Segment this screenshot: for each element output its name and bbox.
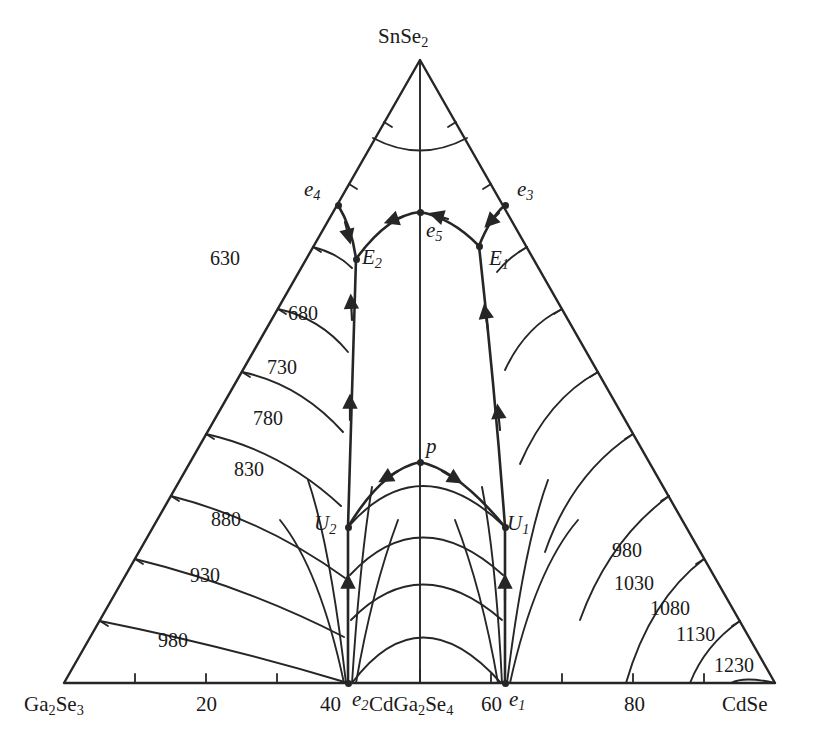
isotherm-arcs-right [497, 247, 775, 683]
invariant-point-marker-U2 [345, 524, 352, 531]
invariant-point-marker-e1 [502, 680, 509, 687]
isotherm-label-730: 730 [267, 357, 297, 377]
vertex-label-bottom-left: Ga2Se3 [24, 694, 84, 717]
vertex-label-bottom-right: CdSe [722, 694, 768, 715]
isotherm-label-830: 830 [234, 459, 264, 479]
invariant-point-marker-E2 [353, 256, 360, 263]
isotherm-label-1080: 1080 [650, 598, 690, 618]
invariant-point-marker-E1 [476, 243, 483, 250]
vertex-label-top: SnSe2 [378, 26, 428, 49]
invariant-point-E1: E1 [489, 248, 509, 271]
invariant-point-e3: e3 [517, 179, 533, 202]
isotherm-label-980: 980 [158, 630, 188, 650]
isotherm-label-630: 630 [210, 248, 240, 268]
isotherm-label-1030: 1030 [614, 573, 654, 593]
axis-compound-label: CdGa2Se4 [369, 694, 453, 717]
invariant-point-marker-p [417, 459, 424, 466]
invariant-point-e5: e5 [426, 220, 442, 243]
isotherm-label-1130: 1130 [676, 624, 715, 644]
isotherm-label-880: 880 [211, 509, 241, 529]
isotherm-label-980: 980 [612, 540, 642, 560]
invariant-point-marker-e5 [417, 209, 424, 216]
isotherm-label-780: 780 [253, 408, 283, 428]
invariant-point-e2: e2 [352, 689, 368, 712]
invariant-point-p: p [426, 436, 437, 457]
boundary-p-U1 [420, 462, 505, 527]
invariant-point-e1: e1 [509, 689, 525, 712]
isotherm-arcs-center [348, 486, 505, 683]
invariant-point-marker-U1 [502, 524, 509, 531]
boundary-e4-E2 [338, 205, 356, 259]
axis-tick-label-60: 60 [481, 694, 502, 715]
ternary-phase-diagram: SnSe2 Ga2Se3 CdSe 20 40 CdGa2Se4 60 80 e… [0, 0, 832, 755]
invariant-point-marker-e4 [335, 202, 342, 209]
invariant-point-U1: U1 [507, 513, 529, 536]
invariant-point-marker-e3 [502, 202, 509, 209]
isotherm-label-1230: 1230 [714, 655, 754, 675]
invariant-point-marker-e2 [345, 680, 352, 687]
isotherm-label-680: 680 [288, 303, 318, 323]
axis-tick-label-80: 80 [624, 694, 645, 715]
boundary-e3-E1 [479, 205, 505, 246]
invariant-point-E2: E2 [362, 247, 382, 270]
isotherm-label-930: 930 [190, 565, 220, 585]
invariant-point-e4: e4 [304, 179, 320, 202]
axis-tick-label-20: 20 [196, 694, 217, 715]
boundary-E1-e1 [479, 246, 505, 683]
boundary-p-U2 [348, 462, 420, 527]
axis-tick-label-40: 40 [320, 694, 341, 715]
invariant-point-U2: U2 [314, 513, 336, 536]
